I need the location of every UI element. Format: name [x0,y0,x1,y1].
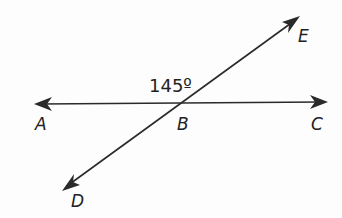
angle-label: 145º [149,77,192,95]
point-label-d: D [71,193,84,210]
point-label-a: A [35,116,47,133]
point-label-b: B [177,116,189,133]
lines-drawing [0,0,342,218]
point-label-e: E [298,28,309,45]
point-label-c: C [311,116,323,133]
arrow-d-icon [62,174,80,191]
geometry-diagram: 145º A B C D E [0,0,342,218]
